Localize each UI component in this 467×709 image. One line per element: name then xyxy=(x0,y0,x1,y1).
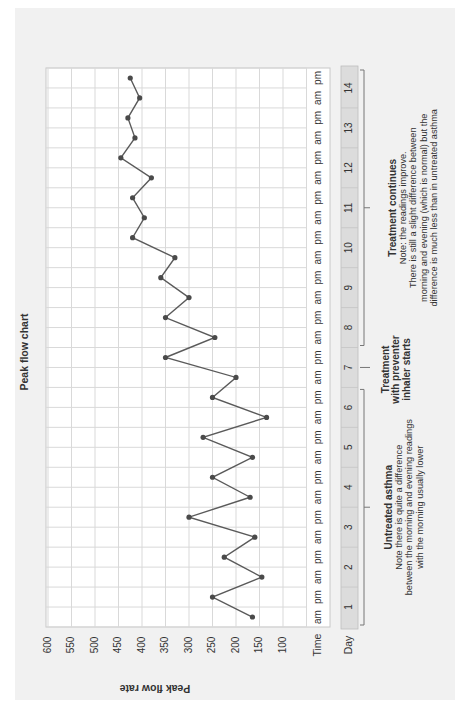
data-point-marker xyxy=(186,515,191,520)
day-label: 13 xyxy=(343,122,354,134)
day-label: 5 xyxy=(343,444,354,450)
time-label: am xyxy=(312,570,323,584)
data-point-marker xyxy=(149,175,154,180)
annotation-treatment-continues: Treatment continues xyxy=(387,158,398,256)
annotation-treatment-starts: inhaler starts xyxy=(401,338,412,401)
value-tick-label: 400 xyxy=(136,636,147,653)
annotation-untreated-asthma: Note there is quite a difference xyxy=(394,445,404,570)
data-point-marker xyxy=(222,555,227,560)
day-label: 9 xyxy=(343,284,354,290)
data-point-marker xyxy=(163,355,168,360)
data-point-marker xyxy=(259,574,264,579)
time-label: am xyxy=(312,291,323,305)
data-point-marker xyxy=(233,375,238,380)
annotation-untreated-asthma: between the morning and evening readings xyxy=(404,419,414,596)
value-tick-label: 500 xyxy=(89,636,100,653)
time-label: am xyxy=(312,530,323,544)
time-label: pm xyxy=(312,71,323,85)
annotation-untreated-asthma: Untreated asthma xyxy=(383,465,394,550)
time-label: pm xyxy=(312,231,323,245)
annotation-treatment-continues: There is still a slight difference betwe… xyxy=(408,127,418,288)
bracket-treatment-continues xyxy=(360,70,364,346)
day-label: 11 xyxy=(343,202,354,213)
bracket-untreated xyxy=(360,389,364,625)
axis-title-peak-flow-rate: Peak flow rate xyxy=(120,683,191,695)
time-label: pm xyxy=(312,111,323,125)
time-label: pm xyxy=(312,590,323,604)
time-label: am xyxy=(312,91,323,105)
data-point-marker xyxy=(172,255,177,260)
day-label: 4 xyxy=(343,484,354,490)
time-label: am xyxy=(312,610,323,624)
value-tick-label: 100 xyxy=(277,636,288,653)
time-label: am xyxy=(312,410,323,424)
value-tick-label: 600 xyxy=(42,636,53,653)
time-label: pm xyxy=(312,351,323,365)
time-label: pm xyxy=(312,191,323,205)
data-point-marker xyxy=(264,415,269,420)
annotation-treatment-starts: with preventer xyxy=(390,335,401,404)
time-label: pm xyxy=(312,311,323,325)
value-tick-label: 150 xyxy=(253,636,264,653)
value-tick-label: 300 xyxy=(183,636,194,653)
data-point-marker xyxy=(210,395,215,400)
data-point-marker xyxy=(130,195,135,200)
annotation-treatment-continues: morning and evening (which is normal) bu… xyxy=(419,114,429,302)
day-row-label: Day xyxy=(342,635,354,654)
peak-flow-chart: 600550500450400350300250200150100Peak fl… xyxy=(0,0,467,709)
data-point-marker xyxy=(250,614,255,619)
day-label: 7 xyxy=(343,364,354,370)
data-point-marker xyxy=(137,95,142,100)
day-label: 3 xyxy=(343,524,354,530)
data-point-marker xyxy=(118,155,123,160)
time-label: pm xyxy=(312,390,323,404)
time-row-label: Time xyxy=(311,633,323,656)
data-point-marker xyxy=(212,335,217,340)
day-label: 10 xyxy=(343,242,354,254)
data-point-marker xyxy=(252,535,257,540)
time-label: am xyxy=(312,251,323,265)
data-point-marker xyxy=(163,315,168,320)
data-point-marker xyxy=(186,295,191,300)
value-tick-label: 550 xyxy=(65,636,76,653)
annotation-treatment-continues: difference is much less than in untreate… xyxy=(429,108,439,306)
time-label: am xyxy=(312,211,323,225)
time-label: am xyxy=(312,370,323,384)
day-label: 6 xyxy=(343,404,354,410)
time-label: pm xyxy=(312,550,323,564)
data-point-marker xyxy=(130,235,135,240)
time-label: pm xyxy=(312,151,323,165)
chart-title: Peak flow chart xyxy=(18,313,30,391)
data-point-marker xyxy=(210,594,215,599)
value-tick-label: 200 xyxy=(230,636,241,653)
data-point-marker xyxy=(132,135,137,140)
data-point-marker xyxy=(158,275,163,280)
data-point-marker xyxy=(128,75,133,80)
annotation-treatment-starts: Treatment xyxy=(380,345,391,393)
day-label: 12 xyxy=(343,162,354,174)
data-point-marker xyxy=(250,455,255,460)
data-point-marker xyxy=(125,115,130,120)
value-tick-label: 350 xyxy=(159,636,170,653)
data-point-marker xyxy=(201,435,206,440)
time-label: am xyxy=(312,171,323,185)
time-label: pm xyxy=(312,510,323,524)
value-tick-label: 450 xyxy=(112,636,123,653)
day-label: 1 xyxy=(343,604,354,610)
data-point-marker xyxy=(210,475,215,480)
chart-stage: 600550500450400350300250200150100Peak fl… xyxy=(0,0,467,709)
data-point-marker xyxy=(142,215,147,220)
time-label: pm xyxy=(312,470,323,484)
time-label: pm xyxy=(312,271,323,285)
time-label: pm xyxy=(312,430,323,444)
time-label: am xyxy=(312,450,323,464)
annotation-untreated-asthma: with the morning usually lower xyxy=(415,446,425,570)
time-label: am xyxy=(312,490,323,504)
day-label: 14 xyxy=(343,82,354,94)
time-label: am xyxy=(312,131,323,145)
time-label: am xyxy=(312,331,323,345)
day-label: 2 xyxy=(343,564,354,570)
annotation-treatment-continues: Note: the readings improve. xyxy=(398,151,408,264)
day-label: 8 xyxy=(343,324,354,330)
data-point-marker xyxy=(248,495,253,500)
